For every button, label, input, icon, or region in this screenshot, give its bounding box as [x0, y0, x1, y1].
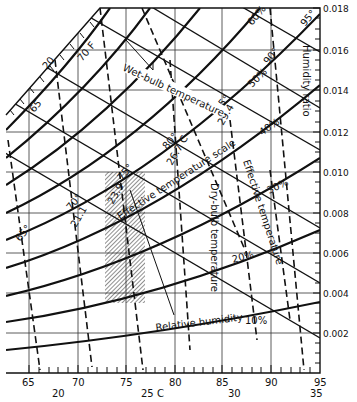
- y-tick-label: 0.016: [323, 46, 349, 56]
- rh-label-20: 20%: [231, 249, 255, 265]
- y-axis-labels: 0.018 0.016 0.014 0.012 0.010 0.008 0.00…: [323, 4, 349, 339]
- x-tick-label-f: 65: [22, 377, 35, 388]
- y-tick-label: 0.014: [323, 86, 349, 96]
- x-tick-label-f: 85: [216, 377, 229, 388]
- x-axis-labels-celsius: 20 25 C 30 35: [52, 388, 323, 399]
- y-tick-label: 0.012: [323, 128, 349, 138]
- saturation-label-70f: 70 F: [75, 39, 98, 63]
- rh-label-60: 60%: [245, 3, 268, 27]
- x-axis-labels-fahrenheit: 65 70 75 80 85 90 95: [22, 377, 327, 388]
- rh-label-50: 50%: [246, 66, 270, 90]
- x-tick-label-c: 30: [228, 388, 241, 399]
- saturation-label-20c: 20: [40, 54, 57, 71]
- x-tick-label-c: 20: [52, 388, 65, 399]
- rh-label-30: 30%: [265, 176, 290, 195]
- y-tick-label: 0.008: [323, 209, 349, 219]
- x-tick-label-f: 90: [265, 377, 278, 388]
- y-tick-label: 0.006: [323, 249, 349, 259]
- x-tick-label-c: 35: [310, 388, 323, 399]
- x-tick-label-c: 25 C: [141, 388, 164, 399]
- saturation-scale-ticks: [10, 22, 94, 115]
- humidity-ratio-title: Humidity ratio: [301, 45, 312, 117]
- dry-bulb-title: Dry-bulb temperature: [209, 183, 220, 292]
- y-tick-label: 0.002: [323, 329, 349, 339]
- x-axis-ticks: [29, 365, 310, 373]
- rh-label-10: 10%: [245, 315, 267, 326]
- y-tick-label: 0.010: [323, 168, 349, 178]
- wb-label-90: 90°: [261, 46, 281, 67]
- x-tick-label-f: 80: [169, 377, 182, 388]
- y-axis-ticks: [313, 8, 320, 363]
- x-tick-label-f: 70: [72, 377, 85, 388]
- wb-label-65: 65°: [13, 223, 33, 244]
- wb-label-95: 95°: [298, 8, 318, 29]
- x-tick-label-f: 75: [120, 377, 133, 388]
- x-tick-label-f: 95: [314, 377, 327, 388]
- psychrometric-chart: 0.018 0.016 0.014 0.012 0.010 0.008 0.00…: [0, 0, 357, 402]
- y-tick-label: 0.004: [323, 289, 349, 299]
- y-tick-label: 0.018: [323, 4, 349, 14]
- relative-humidity-title: Relative humidity: [155, 311, 243, 333]
